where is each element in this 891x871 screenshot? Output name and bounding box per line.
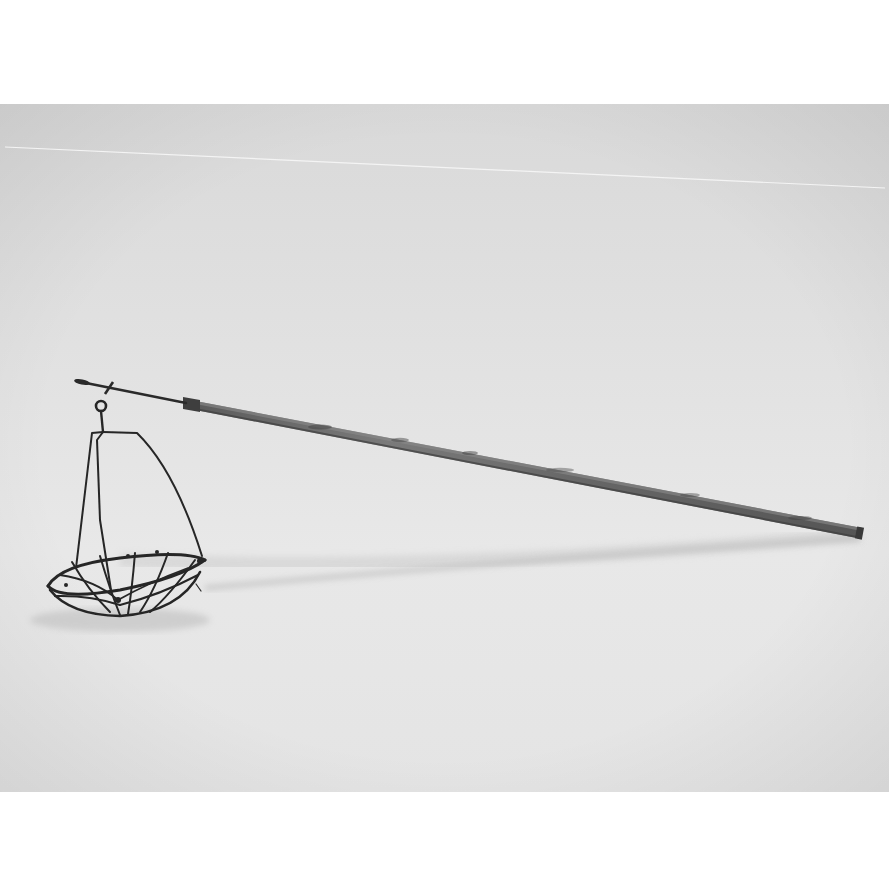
photograph bbox=[0, 104, 889, 792]
photo-canvas bbox=[0, 104, 889, 792]
page bbox=[0, 0, 891, 871]
basket-shadow bbox=[30, 608, 210, 632]
